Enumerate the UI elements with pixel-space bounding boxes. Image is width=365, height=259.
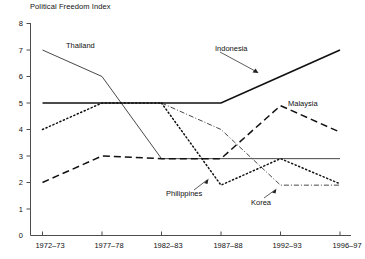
- x-tick-label: 1972–73: [35, 241, 64, 250]
- chart-plot: 8 7 6 5 4 3 2 1 0 1972–73 1977–78 1982–8…: [0, 0, 365, 259]
- chart-container: Political Freedom Index 8 7 6 5 4 3 2 1 …: [0, 0, 365, 259]
- y-tick-label: 2: [19, 178, 23, 187]
- series-line-indonesia: [43, 50, 341, 103]
- indonesia-arrow-head: [253, 69, 259, 74]
- y-tick-label: 1: [19, 205, 23, 214]
- series-labels: Thailand Indonesia Malaysia Philippines …: [66, 41, 318, 207]
- series-label-indonesia: Indonesia: [215, 44, 248, 53]
- series-label-philippines: Philippines: [166, 189, 203, 198]
- y-tick-label: 6: [19, 72, 23, 81]
- series-line-philippines: [162, 103, 341, 185]
- series-label-thailand: Thailand: [66, 41, 95, 50]
- x-tick-marks: [43, 232, 341, 236]
- y-tick-label: 4: [19, 125, 23, 134]
- data-series-group: [43, 50, 341, 185]
- y-tick-label: 0: [19, 231, 23, 240]
- series-line-korea-early: [43, 103, 162, 130]
- y-tick-label: 5: [19, 99, 23, 108]
- x-tick-label: 1996–97: [332, 241, 361, 250]
- korea-arrow-leader: [264, 190, 275, 198]
- indonesia-arrow-leader: [220, 52, 257, 72]
- x-tick-label: 1977–78: [94, 241, 123, 250]
- philippines-arrow-head: [204, 179, 209, 185]
- y-tick-label: 3: [19, 152, 23, 161]
- korea-arrow-head: [272, 189, 277, 194]
- y-tick-label: 7: [19, 46, 23, 55]
- y-tick-marks: [27, 24, 31, 210]
- x-tick-label: 1992–93: [272, 241, 301, 250]
- x-tick-labels: 1972–73 1977–78 1982–83 1987–88 1992–93 …: [35, 241, 361, 250]
- x-tick-label: 1982–83: [153, 241, 182, 250]
- annotation-arrows: [194, 52, 277, 198]
- series-label-malaysia: Malaysia: [288, 99, 318, 108]
- y-tick-labels: 8 7 6 5 4 3 2 1 0: [19, 19, 23, 240]
- series-label-korea: Korea: [251, 198, 272, 207]
- x-tick-label: 1987–88: [213, 241, 242, 250]
- y-tick-label: 8: [19, 19, 23, 28]
